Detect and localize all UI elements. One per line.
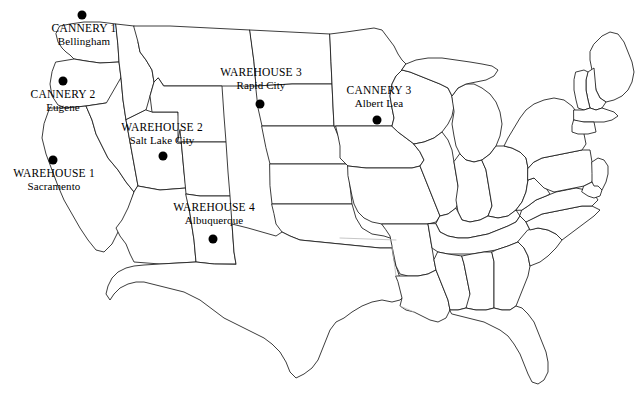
site-city-warehouse-3: Rapid City <box>220 79 302 91</box>
state-nebraska <box>262 126 348 164</box>
site-name-cannery-1: CANNERY 1 <box>52 22 117 35</box>
site-name-cannery-2: CANNERY 2 <box>31 88 96 101</box>
label-warehouse-1: WAREHOUSE 1 Sacramento <box>13 167 95 192</box>
site-name-cannery-3: CANNERY 3 <box>347 84 412 97</box>
site-city-cannery-3: Albert Lea <box>347 97 412 109</box>
state-kansas <box>270 164 352 204</box>
label-cannery-1: CANNERY 1 Bellingham <box>52 22 117 47</box>
site-city-warehouse-4: Albuquerque <box>173 214 255 226</box>
state-georgia <box>492 242 530 310</box>
marker-cannery-1[interactable] <box>78 11 87 20</box>
marker-warehouse-3[interactable] <box>256 100 265 109</box>
marker-cannery-3[interactable] <box>373 116 382 125</box>
marker-warehouse-1[interactable] <box>49 156 58 165</box>
marker-cannery-2[interactable] <box>59 77 68 86</box>
site-city-cannery-1: Bellingham <box>52 35 117 47</box>
usa-outline-svg <box>0 0 639 395</box>
state-florida <box>450 306 548 384</box>
state-massachusetts <box>574 108 618 122</box>
marker-warehouse-2[interactable] <box>159 152 168 161</box>
site-city-warehouse-2: Salt Lake City <box>121 134 203 146</box>
label-warehouse-2: WAREHOUSE 2 Salt Lake City <box>121 121 203 146</box>
site-name-warehouse-1: WAREHOUSE 1 <box>13 167 95 180</box>
label-warehouse-4: WAREHOUSE 4 Albuquerque <box>173 201 255 226</box>
label-cannery-2: CANNERY 2 Eugene <box>31 88 96 113</box>
site-name-warehouse-3: WAREHOUSE 3 <box>220 66 302 79</box>
site-city-cannery-2: Eugene <box>31 101 96 113</box>
usa-facility-map: CANNERY 1 Bellingham CANNERY 2 Eugene WA… <box>0 0 639 395</box>
state-connecticut <box>572 120 596 134</box>
label-warehouse-3: WAREHOUSE 3 Rapid City <box>220 66 302 91</box>
marker-warehouse-4[interactable] <box>209 235 218 244</box>
site-name-warehouse-4: WAREHOUSE 4 <box>173 201 255 214</box>
label-cannery-3: CANNERY 3 Albert Lea <box>347 84 412 109</box>
site-city-warehouse-1: Sacramento <box>13 180 95 192</box>
site-name-warehouse-2: WAREHOUSE 2 <box>121 121 203 134</box>
